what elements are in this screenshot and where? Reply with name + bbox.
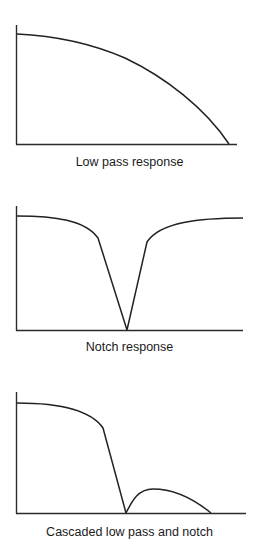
notch-plot bbox=[0, 180, 259, 365]
cascaded-figure: Cascaded low pass and notch bbox=[0, 365, 259, 553]
notch-caption: Notch response bbox=[0, 340, 259, 354]
low-pass-caption: Low pass response bbox=[0, 155, 259, 169]
low-pass-plot bbox=[0, 0, 259, 180]
notch-figure: Notch response bbox=[0, 180, 259, 365]
notch-curve bbox=[17, 216, 243, 330]
cascaded-curve bbox=[17, 403, 211, 513]
low-pass-curve bbox=[17, 34, 229, 144]
cascaded-caption: Cascaded low pass and notch bbox=[0, 525, 259, 539]
low-pass-figure: Low pass response bbox=[0, 0, 259, 180]
